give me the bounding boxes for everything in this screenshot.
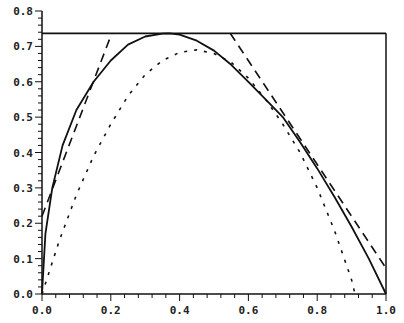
y-tick-label: 0.0 bbox=[13, 288, 33, 301]
data-series bbox=[42, 33, 386, 294]
y-tick-label: 0.8 bbox=[13, 5, 33, 18]
x-tick-label: 1.0 bbox=[376, 304, 396, 317]
x-tick-label: 0.8 bbox=[307, 304, 327, 317]
x-tick-label: 0.4 bbox=[170, 304, 190, 317]
y-tick-label: 0.1 bbox=[13, 253, 33, 266]
y-tick-label: 0.2 bbox=[13, 217, 33, 230]
y-tick-label: 0.6 bbox=[13, 76, 33, 89]
x-tick-label: 0.2 bbox=[101, 304, 121, 317]
y-tick-label: 0.4 bbox=[13, 147, 33, 160]
y-tick-label: 0.5 bbox=[13, 111, 33, 124]
x-tick-label: 0.0 bbox=[32, 304, 52, 317]
x-tick-label: 0.6 bbox=[238, 304, 258, 317]
y-tick-label: 0.7 bbox=[13, 40, 33, 53]
dotted-curve bbox=[42, 50, 355, 294]
solid-curve bbox=[42, 33, 386, 294]
y-tick-label: 0.3 bbox=[13, 182, 33, 195]
right-tangent bbox=[230, 33, 386, 268]
axis-ticks bbox=[35, 11, 386, 301]
line-chart: 0.00.10.20.30.40.50.60.70.80.00.20.40.60… bbox=[0, 0, 404, 323]
